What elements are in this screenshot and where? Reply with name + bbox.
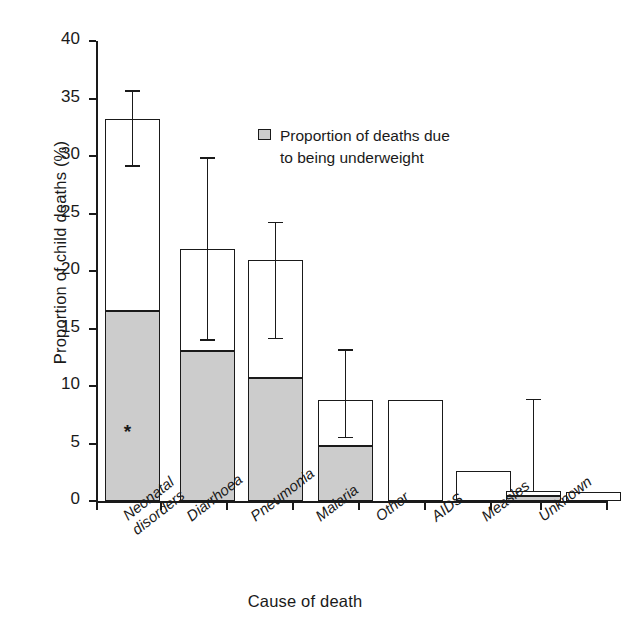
error-bar-pneumonia <box>275 222 277 338</box>
y-tick-25: 25 <box>89 213 96 215</box>
chart-legend: Proportion of deaths due to being underw… <box>258 125 450 170</box>
y-tick-label-5: 5 <box>71 432 80 452</box>
y-tick-35: 35 <box>89 98 96 100</box>
x-tick-3 <box>292 503 294 510</box>
error-cap-upper-measles <box>526 399 541 401</box>
y-tick-15: 15 <box>89 328 96 330</box>
legend-label: Proportion of deaths due to being underw… <box>280 125 450 170</box>
y-tick-label-30: 30 <box>61 144 80 164</box>
error-bar-diarrhoea <box>207 157 209 339</box>
y-tick-10: 10 <box>89 385 96 387</box>
bar-underweight-segment-neonatal-disorders <box>106 310 159 500</box>
x-tick-8 <box>606 503 608 510</box>
error-cap-upper-diarrhoea <box>200 157 215 159</box>
error-cap-upper-pneumonia <box>268 222 283 224</box>
y-tick-label-25: 25 <box>61 202 80 222</box>
error-cap-upper-malaria <box>338 349 353 351</box>
y-tick-5: 5 <box>89 443 96 445</box>
error-cap-lower-diarrhoea <box>200 339 215 341</box>
x-tick-0 <box>96 503 98 510</box>
bar-other <box>388 400 443 501</box>
y-tick-label-20: 20 <box>61 259 80 279</box>
x-axis-label: Cause of death <box>0 592 610 611</box>
significance-asterisk: * <box>124 421 131 440</box>
y-tick-label-40: 40 <box>61 29 80 49</box>
y-axis-line <box>96 41 98 503</box>
legend-swatch-icon <box>258 129 271 140</box>
y-tick-label-0: 0 <box>71 489 80 509</box>
y-tick-label-15: 15 <box>61 317 80 337</box>
bar-neonatal-disorders <box>105 119 160 501</box>
x-tick-2 <box>226 503 228 510</box>
y-tick-label-35: 35 <box>61 87 80 107</box>
x-tick-5 <box>424 503 426 510</box>
x-tick-4 <box>358 503 360 510</box>
y-tick-0: 0 <box>89 500 96 502</box>
error-bar-malaria <box>345 349 347 436</box>
y-tick-label-10: 10 <box>61 374 80 394</box>
error-cap-lower-malaria <box>338 437 353 439</box>
error-cap-upper-neonatal-disorders <box>125 90 140 92</box>
plot-area: 0510152025303540 * <box>96 41 608 503</box>
legend-label-line-1: Proportion of deaths due <box>280 125 450 147</box>
error-cap-lower-pneumonia <box>268 338 283 340</box>
y-tick-20: 20 <box>89 270 96 272</box>
error-bar-neonatal-disorders <box>132 90 134 165</box>
y-tick-30: 30 <box>89 155 96 157</box>
error-bar-measles <box>533 399 535 491</box>
error-cap-lower-neonatal-disorders <box>125 165 140 167</box>
legend-label-line-2: to being underweight <box>280 147 450 169</box>
y-tick-40: 40 <box>89 40 96 42</box>
